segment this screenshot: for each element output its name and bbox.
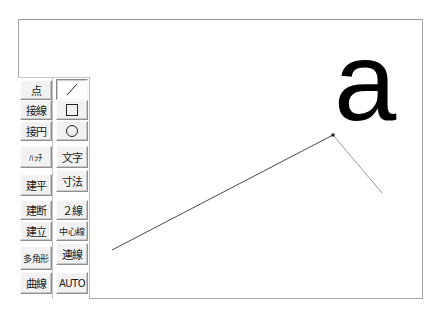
drawn-line[interactable]	[112, 135, 333, 250]
tool-point-button[interactable]: 点	[20, 80, 52, 100]
tool-line-button[interactable]	[56, 79, 88, 100]
tool-center-line-button[interactable]: 中心線	[56, 221, 88, 241]
tool-curve-button[interactable]: 曲線	[20, 272, 52, 294]
tool-elevation-front-button[interactable]: 建立	[20, 221, 52, 241]
tool-continuous-line-button[interactable]: 連線	[56, 243, 88, 265]
tool-circle-button[interactable]	[56, 121, 88, 141]
rectangle-icon	[57, 101, 87, 119]
tool-auto-button[interactable]: AUTO	[56, 272, 88, 294]
tool-double-line-button[interactable]: ２線	[56, 200, 88, 220]
line-icon	[57, 80, 87, 99]
circle-icon	[57, 122, 87, 140]
tool-elevation-section-button[interactable]: 建断	[20, 200, 52, 220]
tool-tangent-line-button[interactable]: 接線	[20, 100, 52, 120]
tool-tangent-circle-button[interactable]: 接円	[20, 121, 52, 141]
tool-elevation-plan-button[interactable]: 建平	[20, 174, 52, 196]
tool-rectangle-button[interactable]	[56, 100, 88, 120]
tool-hatch-button[interactable]: ﾊｯﾁ	[20, 146, 52, 168]
canvas-text-glyph[interactable]: a	[334, 32, 396, 132]
tool-polygon-button[interactable]: 多角形	[20, 246, 52, 270]
tool-palette-divider	[52, 77, 53, 299]
tool-text-button[interactable]: 文字	[56, 146, 88, 168]
tool-dimension-button[interactable]: 寸法	[56, 170, 88, 192]
